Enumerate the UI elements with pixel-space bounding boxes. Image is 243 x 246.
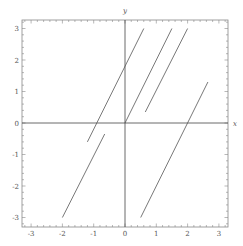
x-axis-label: x (233, 120, 237, 128)
x-tick-label: 1 (154, 230, 158, 238)
segment-4 (62, 134, 104, 218)
x-tick-label: 3 (217, 230, 221, 238)
x-tick-label: -2 (59, 230, 66, 238)
y-tick-label: -2 (12, 183, 19, 191)
segment-5 (141, 82, 208, 218)
y-tick-label: 1 (15, 88, 19, 96)
segment-3 (145, 29, 187, 113)
coordinate-axes (22, 20, 228, 227)
x-tick-label: 0 (123, 230, 127, 238)
y-tick-label: 3 (15, 25, 19, 33)
y-tick-label: -1 (12, 151, 19, 159)
segment-2 (125, 29, 172, 124)
segment-1 (87, 29, 143, 142)
y-tick-label: 0 (15, 120, 19, 128)
x-tick-label: -3 (28, 230, 35, 238)
y-tick-label: -3 (12, 214, 19, 222)
x-tick-label: -1 (90, 230, 97, 238)
plot-canvas: -3-2-10123-3-2-10123 x y (0, 0, 243, 246)
tick-labels: -3-2-10123-3-2-10123 (12, 25, 221, 238)
x-tick-label: 2 (185, 230, 189, 238)
y-axis-label: y (122, 7, 128, 15)
y-tick-label: 2 (15, 57, 19, 65)
